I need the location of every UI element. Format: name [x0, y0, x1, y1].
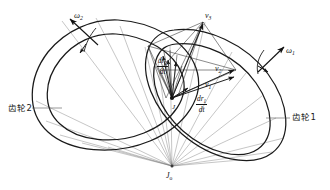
construction-fan: [36, 18, 284, 166]
omega1-label: ω1: [286, 46, 295, 56]
v2-label: v2: [215, 65, 221, 74]
gear-velocity-diagram: [0, 0, 330, 190]
gear2-inner-curve: [47, 34, 184, 140]
contact-point-j: [170, 96, 174, 100]
contact-point-label: J: [172, 104, 175, 111]
dr2dt-label: dr2dt: [157, 57, 168, 76]
gear1-outer-curve: [146, 29, 286, 160]
dr1dt-label: dr1dt: [196, 95, 207, 114]
omega1-indicator: [257, 47, 284, 74]
v3-label: v3: [205, 12, 211, 21]
omega1-rotation-arc: [257, 50, 264, 74]
instant-centre-j0: [171, 165, 174, 168]
gear1-pitch-curves: [146, 29, 286, 160]
gear2-label: 齿轮2: [8, 104, 32, 113]
omega2-label: ω2: [74, 11, 83, 21]
gear1-label: 齿轮1: [292, 113, 316, 122]
instant-centre-label: Jo: [166, 172, 172, 181]
v1-label: v1: [205, 81, 211, 90]
